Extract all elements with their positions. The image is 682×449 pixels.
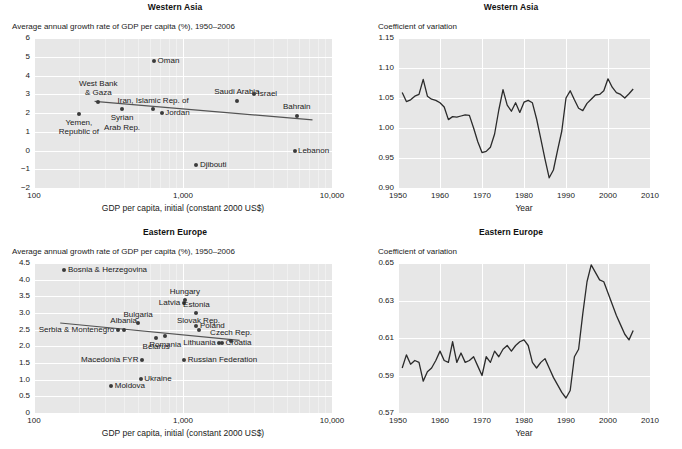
series-line-western-asia-cv [398, 38, 650, 188]
data-point [229, 339, 233, 343]
data-point-label: Bahrain [283, 102, 311, 112]
plot-area-western-asia-scatter: Yemen,Republic ofWest Bank& GazaSyrianAr… [34, 38, 332, 188]
data-point [116, 328, 120, 332]
data-point [139, 377, 143, 381]
data-point-label: Hungary [170, 287, 200, 297]
data-point [96, 100, 100, 104]
x-tick-label: 1950 [389, 191, 407, 200]
y-tick-label: −2 [4, 183, 30, 192]
x-tick-label: 2010 [641, 416, 659, 425]
data-point [163, 334, 167, 338]
x-tick-label: 1980 [515, 191, 533, 200]
data-point-label: Macedonia FYR [81, 355, 138, 365]
x-axis-title-eastern-europe-cv: Year [398, 428, 650, 438]
y-tick-label: 3.5 [4, 291, 30, 300]
data-point-label: Czech Rep. [210, 328, 252, 338]
data-point-label: Lebanon [298, 146, 329, 156]
x-tick-label: 1960 [431, 191, 449, 200]
x-tick-label: 10,000 [320, 416, 344, 425]
figure-root: Western AsiaAverage annual growth rate o… [0, 0, 682, 449]
data-point [152, 59, 156, 63]
x-tick-label: 100 [27, 191, 40, 200]
y-tick-label: 1.5 [4, 358, 30, 367]
data-point [109, 384, 113, 388]
data-point [252, 92, 256, 96]
y-tick-label: 0.95 [368, 153, 394, 162]
x-axis-title-western-asia-cv: Year [398, 203, 650, 213]
y-tick-label: 1.00 [368, 123, 394, 132]
y-axis-label-eastern-europe-scatter: Average annual growth rate of GDP per ca… [12, 247, 235, 256]
y-tick-label: 3 [4, 89, 30, 98]
data-point [140, 358, 144, 362]
data-point-label: Latvia [159, 298, 180, 308]
x-tick-label: 1970 [473, 191, 491, 200]
plot-area-western-asia-cv [398, 38, 650, 188]
data-point [197, 328, 201, 332]
y-tick-label: 0 [4, 408, 30, 417]
y-axis-label-eastern-europe-cv: Coefficient of variation [378, 247, 457, 256]
y-tick-label: 0.5 [4, 391, 30, 400]
data-point-label: Romania [149, 340, 181, 350]
y-tick-label: 1.05 [368, 93, 394, 102]
data-point-label: Bosnia & Herzegovina [68, 265, 147, 275]
data-point-label: Russian Federation [188, 355, 257, 365]
data-point-label: Djibouti [200, 160, 227, 170]
y-tick-label: 2 [4, 108, 30, 117]
data-point [295, 114, 299, 118]
data-point-label: Estonia [183, 300, 210, 310]
x-tick-label: 1990 [557, 416, 575, 425]
data-point-label: Yemen,Republic of [59, 118, 99, 137]
y-tick-label: 0.63 [368, 296, 394, 305]
x-tick-label: 1980 [515, 416, 533, 425]
y-tick-label: 1.15 [368, 33, 394, 42]
y-tick-label: 1.0 [4, 375, 30, 384]
x-tick-label: 2000 [599, 416, 617, 425]
data-point-label: Iran, Islamic Rep. of [118, 96, 189, 106]
data-point [235, 99, 239, 103]
data-point [136, 321, 140, 325]
x-tick-label: 1950 [389, 416, 407, 425]
data-point [62, 268, 66, 272]
y-tick-label: 6 [4, 33, 30, 42]
data-point [120, 107, 124, 111]
x-tick-label: 1990 [557, 191, 575, 200]
data-point-label: Bulgaria [123, 310, 152, 320]
x-tick-label: 10,000 [320, 191, 344, 200]
y-tick-label: −1 [4, 164, 30, 173]
x-tick-label: 1,000 [173, 416, 193, 425]
data-point-label: West Bank& Gaza [79, 79, 118, 98]
panel-title-eastern-europe-cv: Eastern Europe [340, 227, 682, 237]
y-tick-label: 3.0 [4, 308, 30, 317]
x-axis-title-western-asia-scatter: GDP per capita, initial (constant 2000 U… [34, 203, 332, 213]
data-point [182, 358, 186, 362]
data-point-label: Jordan [165, 108, 189, 118]
y-tick-label: 0.65 [368, 258, 394, 267]
data-point-label: Serbia & Montenegro [39, 325, 115, 335]
series-line-eastern-europe-cv [398, 263, 650, 413]
data-point-label: Ukraine [144, 374, 172, 384]
panel-title-western-asia-cv: Western Asia [340, 2, 682, 12]
y-tick-label: 0.59 [368, 371, 394, 380]
x-tick-label: 1,000 [173, 191, 193, 200]
y-tick-label: 5 [4, 52, 30, 61]
y-tick-label: 2.0 [4, 341, 30, 350]
data-point [194, 311, 198, 315]
data-point [293, 149, 297, 153]
x-axis-title-eastern-europe-scatter: GDP per capita, initial (constant 2000 U… [34, 428, 332, 438]
x-tick-label: 1960 [431, 416, 449, 425]
data-point [151, 107, 155, 111]
data-point [194, 163, 198, 167]
data-point [160, 111, 164, 115]
plot-area-eastern-europe-cv [398, 263, 650, 413]
panel-title-western-asia-scatter: Western Asia [0, 2, 350, 12]
y-tick-label: 4 [4, 71, 30, 80]
data-point-label: Israel [258, 89, 278, 99]
y-tick-label: 1.10 [368, 63, 394, 72]
y-tick-label: 4.0 [4, 275, 30, 284]
data-point-label: SyrianArab Rep. [104, 113, 140, 132]
x-tick-label: 100 [27, 416, 40, 425]
y-tick-label: 1 [4, 127, 30, 136]
plot-area-eastern-europe-scatter: Bosnia & HerzegovinaMoldovaSerbia & Mont… [34, 263, 332, 413]
data-point-label: Oman [158, 56, 180, 66]
y-axis-label-western-asia-cv: Coefficient of variation [378, 22, 457, 31]
